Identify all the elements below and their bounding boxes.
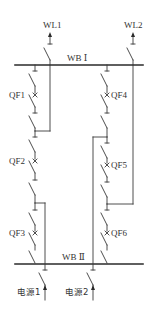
arrow-up-icon	[43, 285, 47, 290]
feeder-wl2	[127, 36, 135, 65]
breaker-label-qf6: QF6	[111, 228, 127, 238]
breaker-qf2	[29, 131, 37, 203]
breaker-qf1	[29, 65, 37, 131]
bus-label-wb2: WB Ⅱ	[62, 252, 85, 262]
breaker-qf6	[101, 204, 109, 263]
breaker-label-qf5: QF5	[111, 160, 127, 170]
breaker-qf5	[101, 137, 109, 204]
feeder-label-wl2: WL2	[124, 20, 143, 30]
breaker-label-qf2: QF2	[9, 156, 25, 166]
feeder-label-wl1: WL1	[43, 20, 62, 30]
feeder-wl1	[44, 36, 52, 65]
source-label-1: 电源1	[17, 287, 40, 297]
source-label-2: 电源2	[65, 287, 88, 297]
breaker-qf3	[29, 203, 37, 263]
breaker-label-qf1: QF1	[9, 90, 25, 100]
arrow-up-icon	[91, 285, 95, 290]
breaker-label-qf3: QF3	[9, 228, 25, 238]
arrow-up-icon	[131, 32, 135, 37]
breaker-qf4	[101, 65, 109, 137]
breaker-label-qf4: QF4	[111, 90, 127, 100]
bus-label-wb1: WB Ⅰ	[67, 53, 87, 63]
arrow-up-icon	[48, 32, 52, 37]
